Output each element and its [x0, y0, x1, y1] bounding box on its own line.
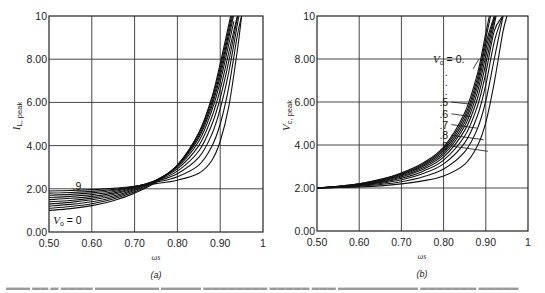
- x-tick-label: 0.60: [349, 236, 370, 248]
- figure-canvas: 0.500.600.700.800.9010.002.004.006.008.0…: [0, 0, 545, 293]
- series-curve: [49, 21, 234, 201]
- x-tick-label: 0.80: [167, 237, 188, 249]
- x-axis-label: ωs: [152, 253, 161, 262]
- y-tick-label: 2.00: [295, 182, 316, 194]
- series-curve: [49, 4, 244, 193]
- panel-label: (a): [151, 270, 162, 280]
- x-tick-label: 0.90: [210, 237, 231, 249]
- y-tick-label: 4.00: [295, 139, 316, 151]
- series-curve: [317, 7, 508, 188]
- y-tick-label: 8.00: [295, 53, 316, 65]
- annotation-label: .9: [73, 180, 82, 192]
- x-axis-label: ωs: [418, 252, 427, 261]
- x-tick-label: 0.80: [433, 236, 454, 248]
- x-tick-label: 0.90: [476, 236, 497, 248]
- series-curve: [49, 6, 234, 209]
- panel-label: (b): [417, 269, 428, 279]
- figure-caption-cutoff: ▬▬▬ ▬▬.▬ ▬▬▬▬ ▬▬▬▬▬▬▬▬ ▬▬▬▬▬ ▬▬▬▬▬▬▬▬ ▬▬…: [6, 283, 518, 292]
- x-tick-label: 0.70: [391, 236, 412, 248]
- y-tick-label: 8.00: [27, 53, 48, 65]
- y-tick-label: 4.00: [27, 140, 48, 152]
- annotation-label: .9: [439, 140, 448, 152]
- chart-panel-a: 0.500.600.700.800.9010.002.004.006.008.0…: [10, 0, 266, 280]
- x-tick-label: 0.70: [124, 237, 145, 249]
- x-tick-label: 1: [260, 237, 266, 249]
- y-tick-label: 6.00: [27, 96, 48, 108]
- y-tick-label: 6.00: [295, 96, 316, 108]
- annotation-label: Vo = 0: [53, 214, 82, 227]
- y-axis-label: IL, peak: [10, 102, 24, 132]
- series-curve: [317, 9, 491, 188]
- x-tick-label: 1: [525, 236, 531, 248]
- y-tick-label: 0.00: [295, 225, 316, 237]
- series-curve: [49, 10, 234, 206]
- annotation-label: .5: [439, 96, 448, 108]
- chart-panel-b: 0.500.600.700.800.9010.002.004.006.008.0…: [280, 0, 531, 279]
- series-curve: [317, 15, 491, 188]
- y-axis-label: Vc, peak: [280, 100, 294, 131]
- y-tick-label: 10: [35, 10, 47, 22]
- curves: [317, 0, 509, 188]
- y-tick-label: 10: [303, 10, 315, 22]
- series-curve: [49, 14, 234, 204]
- y-tick-label: 0.00: [27, 226, 48, 238]
- annotation-label: Vo = 0.: [433, 53, 464, 66]
- x-tick-label: 0.50: [307, 236, 328, 248]
- x-tick-label: 0.60: [82, 237, 103, 249]
- y-tick-label: 2.00: [27, 183, 48, 195]
- x-tick-label: 0.50: [39, 237, 60, 249]
